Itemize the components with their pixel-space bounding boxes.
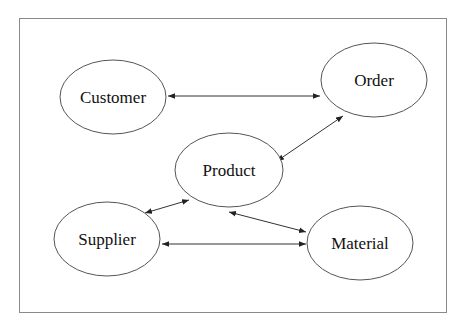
entity-label: Material [331,234,389,253]
entity-label: Supplier [78,230,136,249]
entity-customer: Customer [60,60,166,134]
entity-material: Material [307,206,413,280]
entity-order: Order [321,43,427,117]
entity-label: Order [354,71,394,90]
edge-product-material [229,212,306,232]
edge-supplier-product [145,200,189,213]
entity-label: Product [203,161,256,180]
er-diagram: CustomerOrderProductSupplierMaterial [0,0,468,331]
edge-order-product [277,116,343,161]
entity-label: Customer [80,88,146,107]
entity-supplier: Supplier [54,202,160,276]
entity-product: Product [175,133,283,207]
